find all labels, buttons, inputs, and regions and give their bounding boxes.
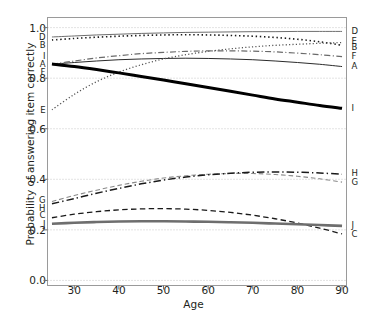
series-label-right-f: F (352, 52, 357, 61)
series-line-a (52, 58, 342, 66)
series-label-right-i: I (352, 104, 355, 113)
series-line-e (52, 43, 342, 110)
series-label-right-g: G (352, 178, 359, 187)
series-group (52, 31, 342, 234)
chart-container: Probability of answering item correctly … (0, 0, 387, 322)
series-label-left-j: J (38, 220, 46, 229)
series-line-d (52, 31, 342, 37)
series-label-right-a: A (352, 62, 358, 71)
series-line-j (52, 221, 342, 226)
series-label-left-f: F (38, 67, 46, 76)
plot-area (0, 0, 387, 322)
series-label-left-e: E (38, 105, 46, 114)
series-line-i (52, 64, 342, 108)
series-line-g (52, 173, 342, 201)
series-line-b (52, 35, 342, 46)
series-label-left-b: B (38, 40, 46, 49)
plot-frame (48, 18, 347, 286)
series-label-right-d: D (352, 27, 359, 36)
series-label-right-c: C (352, 230, 358, 239)
